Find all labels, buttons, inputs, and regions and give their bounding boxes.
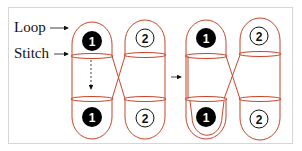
loop-number-disc-outlined: 2	[250, 27, 268, 45]
stitch-ellipse	[185, 97, 227, 102]
loop-number-disc-filled: 1	[82, 107, 102, 127]
stitch-ellipse	[71, 97, 113, 102]
svg-text:1: 1	[203, 32, 210, 46]
stitch-ellipse	[124, 97, 166, 102]
svg-text:1: 1	[203, 111, 210, 125]
svg-text:2: 2	[256, 113, 263, 127]
svg-text:2: 2	[142, 112, 149, 126]
loop-number-disc-filled: 1	[196, 107, 216, 127]
stitch-ellipse	[185, 54, 227, 59]
svg-text:2: 2	[142, 32, 149, 46]
knitting-stitch-diagram: 1 2 1 2 1 2 1 2	[0, 0, 302, 151]
loop-number-disc-outlined: 2	[250, 110, 268, 128]
loop-number-disc-filled: 1	[82, 31, 102, 51]
svg-text:1: 1	[89, 111, 96, 125]
stitch-ellipse	[239, 52, 281, 57]
loop-number-disc-outlined: 2	[136, 109, 154, 127]
stitch-ellipse	[71, 54, 113, 59]
stitch-ellipse	[239, 97, 281, 102]
loop-number-disc-filled: 1	[196, 28, 216, 48]
svg-text:2: 2	[256, 30, 263, 44]
stitch-ellipse	[124, 53, 166, 58]
loop-number-disc-outlined: 2	[136, 29, 154, 47]
svg-text:1: 1	[89, 35, 96, 49]
